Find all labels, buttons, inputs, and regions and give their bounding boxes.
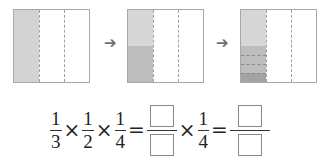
shaded-third bbox=[14, 10, 39, 82]
times-sign: × bbox=[96, 118, 113, 142]
divider-line bbox=[64, 10, 65, 82]
panel-half-of-third bbox=[127, 9, 204, 83]
denominator-blank-box[interactable] bbox=[238, 134, 262, 156]
shaded-bottom-half bbox=[241, 46, 266, 73]
equals-sign: = bbox=[128, 118, 145, 142]
fraction-bar bbox=[147, 130, 177, 131]
divider-line bbox=[266, 10, 267, 82]
panel-quarter-of-half-of-third bbox=[240, 9, 317, 83]
fraction-bar bbox=[230, 130, 270, 131]
fraction: 1 2 bbox=[82, 109, 94, 152]
times-sign: × bbox=[64, 118, 81, 142]
equation: 1 3 × 1 2 × 1 4 = × 1 4 = bbox=[50, 98, 270, 162]
shaded-top-half bbox=[128, 10, 153, 46]
blank-fraction bbox=[147, 105, 177, 156]
arrow-right-icon: ➔ bbox=[216, 36, 229, 51]
fraction: 1 3 bbox=[50, 109, 62, 152]
equals-sign: = bbox=[211, 118, 228, 142]
divider-line bbox=[241, 73, 266, 74]
panel-one-third bbox=[13, 9, 90, 83]
shaded-top-half bbox=[241, 10, 266, 46]
blank-fraction bbox=[230, 105, 270, 156]
divider-line bbox=[39, 10, 40, 82]
numerator-blank-box[interactable] bbox=[150, 105, 174, 127]
numerator-blank-box[interactable] bbox=[238, 105, 262, 127]
fraction: 1 4 bbox=[198, 109, 210, 152]
divider-line bbox=[241, 55, 266, 56]
fraction: 1 4 bbox=[115, 109, 127, 152]
divider-line bbox=[291, 10, 292, 82]
denominator-blank-box[interactable] bbox=[150, 134, 174, 156]
divider-line bbox=[178, 10, 179, 82]
times-sign: × bbox=[179, 118, 196, 142]
arrow-right-icon: ➔ bbox=[104, 36, 117, 51]
shaded-quarter bbox=[241, 73, 266, 82]
divider-line bbox=[241, 64, 266, 65]
divider-line bbox=[153, 10, 154, 82]
shaded-bottom-half bbox=[128, 46, 153, 82]
